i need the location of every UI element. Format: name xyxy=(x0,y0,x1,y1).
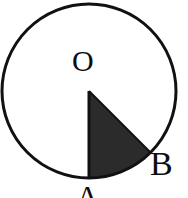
label-center-o: O xyxy=(72,46,94,76)
label-point-b: B xyxy=(150,147,173,181)
shaded-sector-aob xyxy=(89,91,151,178)
label-point-a: A xyxy=(76,181,99,198)
circle-sector-figure: O B A xyxy=(0,0,188,198)
